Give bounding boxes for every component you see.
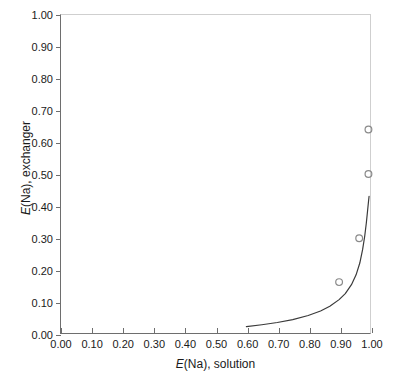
x-tick-label: 0.40 xyxy=(175,339,196,350)
x-axis-title-rest: (Na), solution xyxy=(184,357,255,371)
y-tick-label: 1.00 xyxy=(32,10,53,21)
y-tick-label: 0.10 xyxy=(32,298,53,309)
x-axis-title: E(Na), solution xyxy=(60,358,371,371)
chart-figure: 0.000.100.200.300.400.500.600.700.800.90… xyxy=(0,0,394,382)
x-tick-label: 0.60 xyxy=(237,339,258,350)
y-tick-label: 0.20 xyxy=(32,266,53,277)
x-tick-label: 0.50 xyxy=(206,339,227,350)
data-point-marker xyxy=(336,279,343,286)
data-point-marker xyxy=(365,126,372,133)
y-tick-label: 0.30 xyxy=(32,234,53,245)
x-tick-label: 0.20 xyxy=(112,339,133,350)
x-tick-label: 1.00 xyxy=(361,339,382,350)
x-tick-label: 0.30 xyxy=(144,339,165,350)
x-tick-label: 0.80 xyxy=(299,339,320,350)
x-tick-label: 0.90 xyxy=(330,339,351,350)
data-point-marker xyxy=(365,171,372,178)
y-axis-title-symbol: E xyxy=(19,207,33,215)
y-tick-label: 0.70 xyxy=(32,106,53,117)
y-axis-title: E(Na), exchanger xyxy=(18,8,34,328)
data-point-marker xyxy=(356,235,363,242)
y-axis-title-rest: (Na), exchanger xyxy=(19,121,33,207)
x-tick-mark xyxy=(372,328,373,333)
x-axis-title-symbol: E xyxy=(176,357,184,371)
y-tick-label: 0.80 xyxy=(32,74,53,85)
x-tick-label: 0.00 xyxy=(50,339,71,350)
y-tick-label: 0.50 xyxy=(32,170,53,181)
y-tick-label: 0.40 xyxy=(32,202,53,213)
plot-area: 0.000.100.200.300.400.500.600.700.800.90… xyxy=(60,14,371,334)
data-point-markers xyxy=(336,126,372,285)
model-curve-line xyxy=(246,196,369,326)
y-tick-mark xyxy=(56,335,61,336)
y-tick-label: 0.90 xyxy=(32,42,53,53)
x-tick-label: 0.10 xyxy=(81,339,102,350)
x-tick-label: 0.70 xyxy=(268,339,289,350)
data-layer xyxy=(61,15,370,333)
y-tick-label: 0.60 xyxy=(32,138,53,149)
